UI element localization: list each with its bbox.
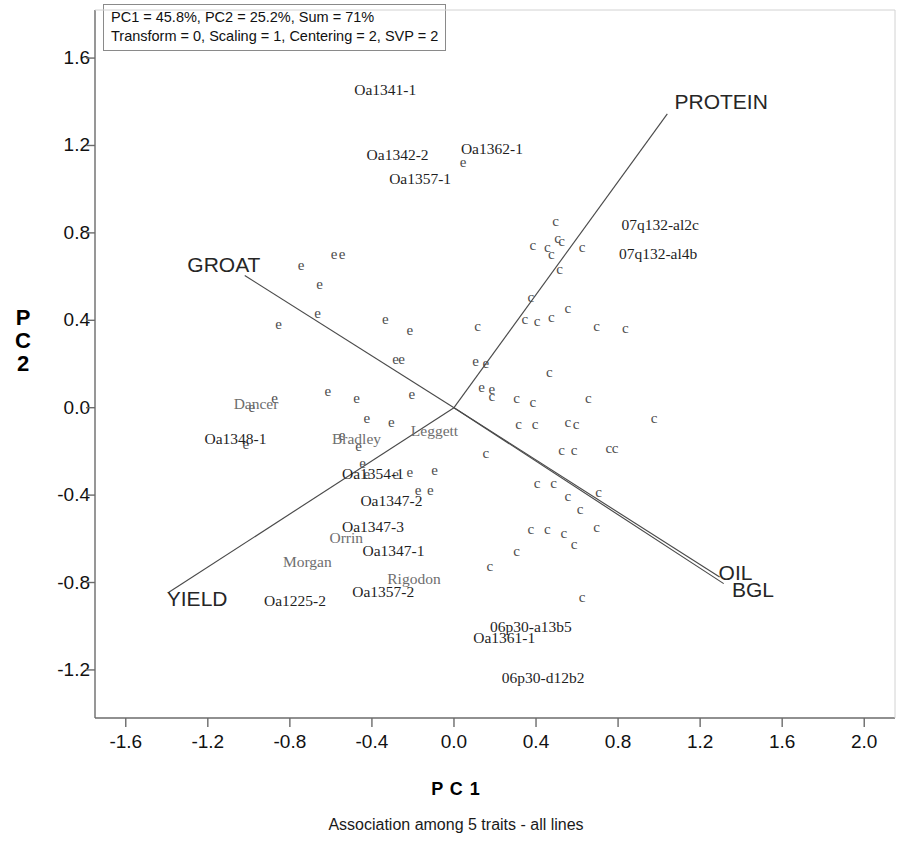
data-point-check: c [651,410,658,426]
trait-vector-labels: PROTEINGROATYIELDOILBGL [167,90,774,610]
data-point-check: c [515,416,522,432]
trait-label-yield: YIELD [167,587,228,610]
data-point-check: c [560,525,567,541]
data-point-check: c [579,589,586,605]
genotype-label: Oa1354-1 [342,465,404,482]
genotype-label: 06p30-d12b2 [502,669,585,686]
data-point-check: c [577,501,584,517]
data-point-check: c [532,416,539,432]
data-point-check: c [573,416,580,432]
genotype-label: Orrin [329,529,363,546]
figure-caption: Association among 5 traits - all lines [0,816,912,834]
data-point-experimental: e [339,246,346,262]
data-point-check: c [487,558,494,574]
data-point-check: c [556,261,563,277]
data-point-check: c [530,394,537,410]
genotype-label: Leggett [411,422,459,439]
data-point-check: c [513,543,520,559]
genotype-label: Morgan [283,553,332,570]
data-point-check: c [530,237,537,253]
data-point-check: c [548,309,555,325]
data-point-check: c [534,313,541,329]
genotype-label: 06p30-a13b5 [490,618,572,635]
trait-label-bgl: BGL [732,578,774,601]
data-point-check: c [534,475,541,491]
data-point-experimental: e [427,482,434,498]
data-point-check: c [558,233,565,249]
data-point-experimental: e [363,410,370,426]
data-point-experimental: e [298,257,305,273]
data-point-experimental: e [353,390,360,406]
x-axis-title: P C 1 [0,779,912,800]
data-point-experimental: e [382,311,389,327]
plot-frame [95,10,895,718]
data-point-experimental: e [398,351,405,367]
genotype-label: Dancer [234,395,280,412]
data-point-experimental: e [388,414,395,430]
genotype-label: Oa1342-2 [367,146,429,163]
vector-groat [245,276,454,408]
genotype-label: Oa1357-1 [389,170,451,187]
data-point-check: c [552,213,559,229]
data-point-check: c [593,318,600,334]
genotype-label: Bradley [332,430,381,447]
genotype-label: Oa1362-1 [461,140,523,157]
data-point-check: c [489,388,496,404]
data-point-check: c [558,442,565,458]
axis-ticks [86,58,864,727]
data-point-experimental: e [407,464,414,480]
data-point-check: c [571,536,578,552]
data-point-check: c [564,300,571,316]
data-point-check: c [571,442,578,458]
genotype-label: Oa1225-2 [264,592,326,609]
data-point-check: c [622,320,629,336]
data-point-check: c [564,414,571,430]
data-point-check: c [482,445,489,461]
data-point-check: c [548,246,555,262]
genotype-label: Oa1341-1 [354,81,416,98]
data-point-check: c [579,239,586,255]
data-point-experimental: e [275,316,282,332]
data-point-check: c [564,488,571,504]
biplot-canvas: eeeeeeeeeeeeeeeeeeeeeeeeeeeeeecccccccccc… [0,0,912,847]
data-point-check: c [612,440,619,456]
data-point-check: c [474,318,481,334]
pca-biplot-page: PC1 = 45.8%, PC2 = 25.2%, Sum = 71% Tran… [0,0,912,847]
data-point-check: c [521,311,528,327]
genotype-label: Oa1357-2 [352,583,414,600]
data-point-experimental: e [316,276,323,292]
data-point-experimental: e [324,383,331,399]
data-point-experimental: e [409,386,416,402]
genotype-label: 07q132-al4b [619,245,698,262]
data-point-check: c [550,475,557,491]
data-point-check: c [544,521,551,537]
data-point-check: c [595,484,602,500]
data-point-experimental: e [478,379,485,395]
data-point-check: c [585,390,592,406]
trait-label-groat: GROAT [187,253,260,276]
data-point-experimental: e [407,322,414,338]
data-point-experimental: e [472,353,479,369]
vector-bgl [454,408,724,584]
genotype-label: Oa1347-2 [360,492,422,509]
data-point-experimental: e [431,462,438,478]
data-point-experimental: e [314,305,321,321]
trait-label-protein: PROTEIN [674,90,767,113]
data-point-check: c [546,364,553,380]
genotype-label: 07q132-al2c [621,216,699,233]
data-points: eeeeeeeeeeeeeeeeeeeeeeeeeeeeeecccccccccc… [242,154,657,605]
data-point-check: c [528,289,535,305]
data-point-check: c [528,521,535,537]
data-point-experimental: e [331,246,338,262]
data-point-experimental: e [482,355,489,371]
data-point-check: c [513,390,520,406]
data-point-check: c [593,519,600,535]
genotype-label: Oa1347-1 [362,542,424,559]
genotype-label: Oa1348-1 [205,430,267,447]
